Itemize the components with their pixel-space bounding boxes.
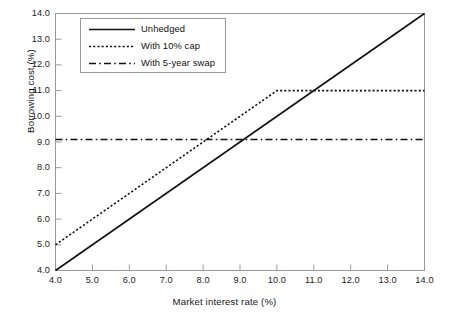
legend-label: With 10% cap bbox=[141, 40, 200, 51]
x-tick-label: 8.0 bbox=[187, 275, 219, 285]
chart-figure: 4.0 5.0 6.0 7.0 8.0 9.0 10.0 11.0 12.0 1… bbox=[0, 0, 449, 318]
legend-item-unhedged: Unhedged bbox=[81, 21, 227, 38]
y-tick-label: 7.0 bbox=[16, 188, 50, 198]
x-tick-label: 11.0 bbox=[298, 275, 330, 285]
x-tick-label: 13.0 bbox=[372, 275, 404, 285]
legend-item-with-5-year-swap: With 5-year swap bbox=[81, 55, 227, 72]
x-tick-label: 6.0 bbox=[113, 275, 145, 285]
x-tick-label: 14.0 bbox=[409, 275, 441, 285]
x-tick-marks bbox=[56, 265, 425, 271]
x-tick-label: 4.0 bbox=[40, 275, 72, 285]
x-axis-title: Market interest rate (%) bbox=[0, 296, 449, 307]
x-tick-label: 12.0 bbox=[335, 275, 367, 285]
legend-item-with-10-percent-cap: With 10% cap bbox=[81, 38, 227, 55]
x-tick-label: 10.0 bbox=[261, 275, 293, 285]
y-tick-label: 6.0 bbox=[16, 214, 50, 224]
y-axis-title-wrapper: Borrowing cost (%) bbox=[20, 6, 38, 176]
x-tick-label: 7.0 bbox=[150, 275, 182, 285]
chart-legend: Unhedged With 10% cap With 5-year swap bbox=[80, 18, 226, 73]
series-line-with-10-percent-cap bbox=[56, 91, 425, 245]
y-tick-label: 4.0 bbox=[16, 265, 50, 275]
legend-swatch-solid bbox=[88, 21, 136, 38]
x-tick-label: 9.0 bbox=[224, 275, 256, 285]
y-tick-marks bbox=[56, 14, 62, 271]
legend-label: With 5-year swap bbox=[141, 57, 215, 68]
x-tick-label: 5.0 bbox=[76, 275, 108, 285]
y-axis-title: Borrowing cost (%) bbox=[25, 49, 36, 133]
legend-label: Unhedged bbox=[141, 23, 185, 34]
legend-swatch-dotted bbox=[88, 38, 136, 55]
y-tick-label: 5.0 bbox=[16, 239, 50, 249]
legend-swatch-dash-dot bbox=[88, 55, 136, 72]
